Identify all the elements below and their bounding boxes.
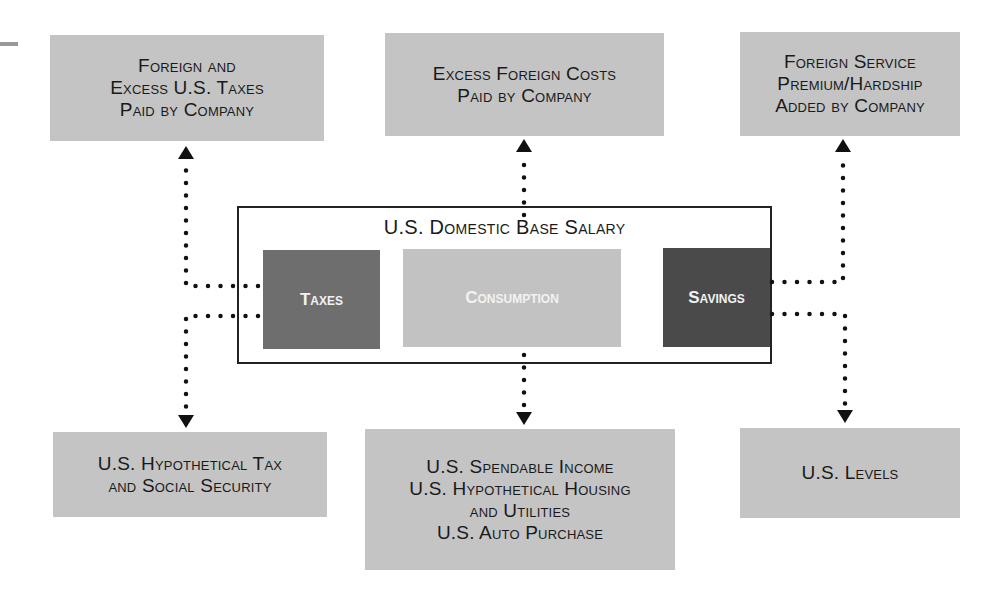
arrow-up-icon (178, 146, 194, 159)
connectors (0, 0, 1007, 589)
arrow-down-icon (837, 410, 853, 423)
connector-taxes-to-foreign-taxes (186, 165, 258, 286)
arrow-down-icon (516, 412, 532, 425)
arrow-down-icon (178, 415, 194, 428)
connector-taxes-to-hypothetical-tax (186, 316, 258, 410)
arrow-up-icon (516, 139, 532, 152)
connector-savings-to-premium (772, 160, 843, 282)
arrow-up-icon (835, 139, 851, 152)
connector-savings-to-us-levels (772, 314, 845, 406)
